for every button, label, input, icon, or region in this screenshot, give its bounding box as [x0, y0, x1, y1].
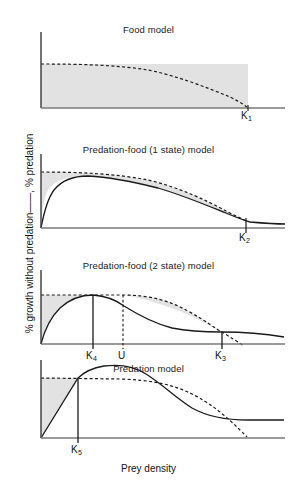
plot-predation-model	[0, 360, 297, 465]
plot-predation-food-2-state	[0, 258, 297, 370]
curve-percent-predation	[41, 176, 285, 228]
shaded-region-food	[41, 64, 248, 108]
panel-title-food-model: Food model	[0, 24, 297, 35]
tick-label-k1: K1	[241, 110, 252, 121]
curve-growth-without-predation	[41, 295, 244, 346]
curve-growth-without-predation	[41, 172, 247, 221]
panel-predation-food-2-state: Predation-food (2 state) model K4 U K3	[0, 258, 297, 370]
figure-container: Food model K1 Predation-food (1 state) m…	[0, 0, 297, 492]
x-axis-label: Prey density	[0, 463, 297, 474]
panel-title-predation-food-1-state: Predation-food (1 state) model	[0, 144, 297, 155]
tick-label-k5: K5	[71, 444, 82, 455]
plot-predation-food-1-state	[0, 140, 297, 250]
tick-label-k2: K2	[239, 232, 250, 243]
panel-predation-model: Predation model K5	[0, 360, 297, 465]
y-axis-label: % growth without predation——, % predatio…	[24, 109, 35, 359]
panel-food-model: Food model K1	[0, 18, 297, 128]
panel-title-predation-food-2-state: Predation-food (2 state) model	[0, 260, 297, 271]
panel-predation-food-1-state: Predation-food (1 state) model K2	[0, 140, 297, 250]
panel-title-predation-model: Predation model	[0, 363, 297, 374]
